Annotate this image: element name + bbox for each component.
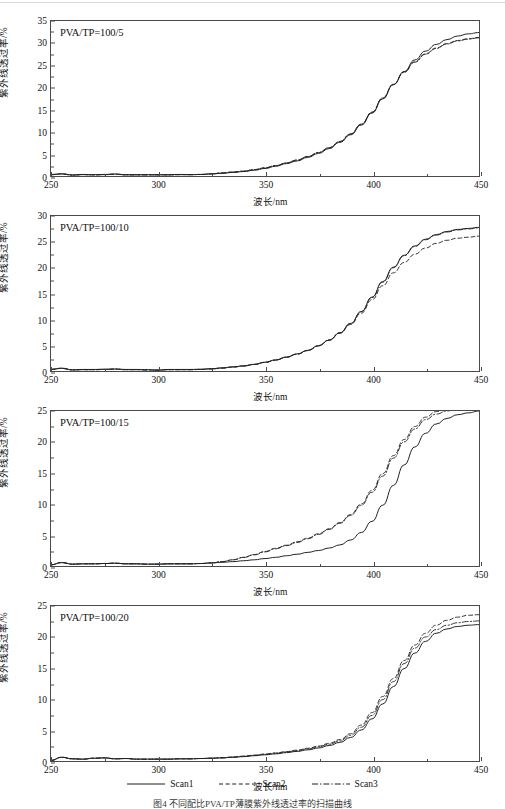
- y-tick-label: 15: [38, 469, 48, 479]
- legend-label: Scan2: [262, 779, 285, 789]
- x-tick-mark-minor: [320, 564, 321, 567]
- x-tick-mark: [266, 367, 267, 371]
- y-tick-label: 20: [38, 437, 48, 447]
- y-tick-label: 5: [42, 532, 47, 542]
- x-tick-mark-minor: [320, 369, 321, 372]
- chart-panel-1: 紫外线透过率/% 051015202530250300350400450 PVA…: [0, 205, 505, 400]
- x-tick-mark-minor: [427, 174, 428, 177]
- y-tick-mark: [51, 21, 55, 22]
- x-tick-mark: [374, 757, 375, 761]
- series-line-scan1: [51, 227, 479, 370]
- page-divider: [0, 2, 505, 3]
- y-tick-label: 25: [38, 61, 48, 71]
- series-line-scan3: [51, 411, 479, 565]
- x-tick-mark-minor: [212, 759, 213, 762]
- x-tick-label: 250: [44, 375, 58, 385]
- x-tick-label: 300: [151, 765, 165, 775]
- plot-svg-1: [51, 216, 479, 371]
- series-line-scan3: [51, 621, 479, 761]
- panel-label-1: PVA/TP=100/10: [60, 222, 129, 233]
- y-tick-mark-minor: [51, 747, 54, 748]
- y-tick-mark-minor: [51, 653, 54, 654]
- x-tick-label: 350: [259, 375, 273, 385]
- y-tick-mark: [51, 65, 55, 66]
- series-line-scan3: [51, 228, 479, 370]
- x-tick-label: 250: [44, 765, 58, 775]
- series-line-scan1: [51, 411, 479, 565]
- plot-svg-3: [51, 606, 479, 761]
- x-tick-mark-minor: [212, 564, 213, 567]
- plot-svg-0: [51, 21, 479, 176]
- x-tick-mark: [374, 367, 375, 371]
- y-axis-label-1: 紫外线透过率/%: [0, 222, 10, 293]
- legend-line-swatch: [127, 780, 165, 788]
- x-tick-mark-minor: [427, 564, 428, 567]
- y-tick-mark-minor: [51, 99, 54, 100]
- x-tick-label: 450: [474, 765, 488, 775]
- y-tick-label: 15: [38, 106, 48, 116]
- series-line-scan3: [51, 38, 479, 175]
- x-tick-mark: [51, 562, 52, 566]
- x-tick-mark-minor: [212, 174, 213, 177]
- x-tick-label: 450: [474, 180, 488, 190]
- y-tick-mark-minor: [51, 166, 54, 167]
- y-tick-label: 15: [38, 290, 48, 300]
- y-tick-mark-minor: [51, 621, 54, 622]
- y-tick-mark: [51, 473, 55, 474]
- y-tick-label: 20: [38, 632, 48, 642]
- x-tick-label: 300: [151, 375, 165, 385]
- y-tick-label: 20: [38, 263, 48, 273]
- y-tick-mark-minor: [51, 54, 54, 55]
- y-tick-mark-minor: [51, 552, 54, 553]
- chart-panel-2: 紫外线透过率/% 0510152025250300350400450 PVA/T…: [0, 400, 505, 595]
- x-tick-mark: [481, 562, 482, 566]
- y-tick-mark: [51, 763, 55, 764]
- x-tick-mark-minor: [105, 759, 106, 762]
- plot-area-1: 051015202530250300350400450: [50, 215, 480, 372]
- y-tick-mark: [51, 568, 55, 569]
- x-tick-label: 400: [366, 375, 380, 385]
- x-tick-label: 350: [259, 180, 273, 190]
- y-tick-mark-minor: [51, 77, 54, 78]
- x-tick-mark: [51, 172, 52, 176]
- plot-area-0: 05101520253035250300350400450: [50, 20, 480, 177]
- y-tick-mark: [51, 88, 55, 89]
- x-tick-label: 250: [44, 180, 58, 190]
- x-tick-label: 250: [44, 570, 58, 580]
- y-tick-mark-minor: [51, 229, 54, 230]
- y-tick-mark-minor: [51, 32, 54, 33]
- y-axis-label-3: 紫外线透过率/%: [0, 612, 10, 683]
- x-tick-mark: [481, 172, 482, 176]
- y-tick-mark-minor: [51, 684, 54, 685]
- y-tick-label: 15: [38, 664, 48, 674]
- x-tick-mark-minor: [320, 174, 321, 177]
- x-tick-label: 450: [474, 570, 488, 580]
- panel-label-3: PVA/TP=100/20: [60, 612, 129, 623]
- y-tick-mark: [51, 606, 55, 607]
- chart-legend: Scan1Scan2Scan3: [0, 779, 505, 789]
- legend-label: Scan3: [355, 779, 378, 789]
- x-tick-mark: [481, 757, 482, 761]
- y-tick-label: 5: [42, 342, 47, 352]
- chart-panel-3: 紫外线透过率/% 0510152025250300350400450 PVA/T…: [0, 595, 505, 790]
- y-tick-label: 10: [38, 316, 48, 326]
- legend-line-swatch: [219, 780, 257, 788]
- y-tick-mark-minor: [51, 121, 54, 122]
- y-tick-mark: [51, 373, 55, 374]
- legend-line-swatch: [312, 780, 350, 788]
- plot-area-3: 0510152025250300350400450: [50, 605, 480, 762]
- y-tick-label: 10: [38, 695, 48, 705]
- y-tick-mark-minor: [51, 255, 54, 256]
- y-tick-mark: [51, 668, 55, 669]
- y-tick-mark: [51, 268, 55, 269]
- x-tick-mark: [51, 367, 52, 371]
- y-tick-mark-minor: [51, 715, 54, 716]
- x-tick-label: 300: [151, 180, 165, 190]
- y-tick-label: 30: [38, 38, 48, 48]
- x-tick-mark-minor: [320, 759, 321, 762]
- series-line-scan2: [51, 236, 479, 370]
- x-tick-mark: [266, 172, 267, 176]
- plot-area-2: 0510152025250300350400450: [50, 410, 480, 567]
- y-tick-label: 5: [42, 151, 47, 161]
- y-tick-mark: [51, 731, 55, 732]
